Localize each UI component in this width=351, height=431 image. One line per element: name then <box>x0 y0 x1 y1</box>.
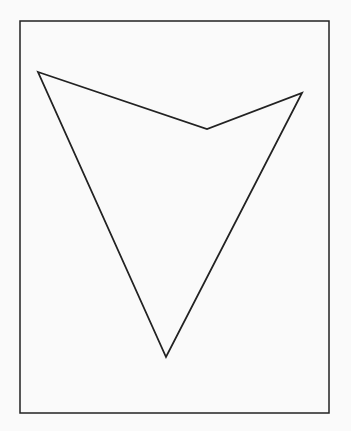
frame-border <box>20 21 329 413</box>
arrowhead-polygon <box>38 72 302 357</box>
diagram-canvas <box>0 0 351 431</box>
